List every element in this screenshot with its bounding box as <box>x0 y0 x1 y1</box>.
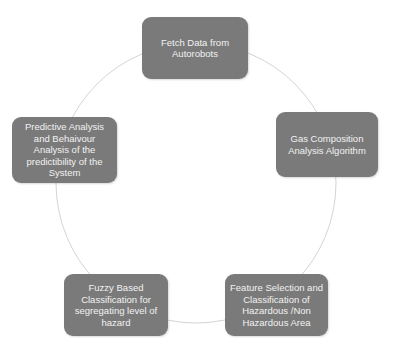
node-gas-composition: Gas Composition Analysis Algorithm <box>276 112 378 177</box>
node-label: Fuzzy Based Classification for segregati… <box>69 282 163 328</box>
node-label: Feature Selection and Classification of … <box>230 282 323 328</box>
node-predictive-analysis: Predictive Analysis and Behaivour Analys… <box>12 117 117 183</box>
cycle-diagram: Fetch Data from Autorobots Gas Compositi… <box>0 0 393 338</box>
node-fuzzy-classification: Fuzzy Based Classification for segregati… <box>64 274 168 336</box>
node-label: Fetch Data from Autorobots <box>147 37 243 60</box>
node-fetch-data: Fetch Data from Autorobots <box>142 17 248 79</box>
node-label: Gas Composition Analysis Algorithm <box>281 133 373 156</box>
node-label: Predictive Analysis and Behaivour Analys… <box>17 121 112 179</box>
node-feature-selection: Feature Selection and Classification of … <box>225 274 328 336</box>
